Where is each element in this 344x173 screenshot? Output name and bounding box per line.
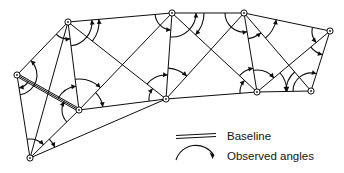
legend-label-observed-angles: Observed angles (227, 150, 314, 162)
network-edge (30, 110, 79, 158)
station-center-dot-g (243, 12, 245, 14)
station-center-dot-h (256, 91, 258, 93)
observed-angle-arrowhead (31, 61, 36, 66)
network-edge (166, 13, 244, 99)
observed-angle-arrowhead (194, 13, 199, 18)
network-edge (166, 92, 257, 99)
observed-angle-arrowhead (273, 20, 278, 25)
station-center-dot-d (29, 157, 31, 159)
legend-item-observed-angles: Observed angles (176, 145, 314, 162)
network-edge (79, 13, 172, 110)
network-edge (172, 13, 257, 92)
observed-angle-arrowhead (19, 85, 24, 90)
station-center-dot-i (329, 30, 331, 32)
network-edge (166, 13, 172, 99)
observed-angle-arrowhead (90, 20, 95, 25)
observed-angle-arrowhead (163, 72, 168, 77)
station-center-dot-b (67, 21, 69, 23)
network-edge (68, 22, 79, 110)
station-center-dot-c (78, 109, 80, 111)
legend-item-baseline: Baseline (176, 130, 271, 142)
observed-angle-arrowhead (97, 19, 102, 24)
observed-angle-arrowhead (248, 67, 253, 72)
observed-angle-arc (253, 70, 273, 78)
station-center-dot-f (165, 98, 167, 100)
triangulation-network-figure: Baseline Observed angles (0, 0, 344, 173)
observed-angle-arrowhead (242, 30, 247, 35)
station-center-dot-a (16, 74, 18, 76)
network-edge (257, 91, 311, 92)
network-edge (244, 13, 257, 92)
baseline-stroke (18, 74, 80, 109)
survey-stations (14, 10, 333, 161)
legend: Baseline Observed angles (176, 130, 314, 162)
network-edge (68, 22, 166, 99)
legend-label-baseline: Baseline (227, 130, 271, 142)
station-center-dot-e (171, 12, 173, 14)
station-center-dot-j (310, 90, 312, 92)
observed-angle-arrowhead (166, 27, 171, 32)
observed-angle-arrowhead (39, 140, 44, 145)
double-line-symbol (176, 134, 216, 139)
observed-angle-arrowhead (182, 71, 187, 76)
observed-angle-arrowhead (95, 83, 100, 88)
observed-angle-arrowhead (195, 30, 200, 35)
baseline-stroke (16, 76, 78, 111)
arc-arrow-symbol (176, 145, 214, 160)
observed-angle-arc (170, 13, 196, 37)
network-edges (17, 13, 330, 158)
